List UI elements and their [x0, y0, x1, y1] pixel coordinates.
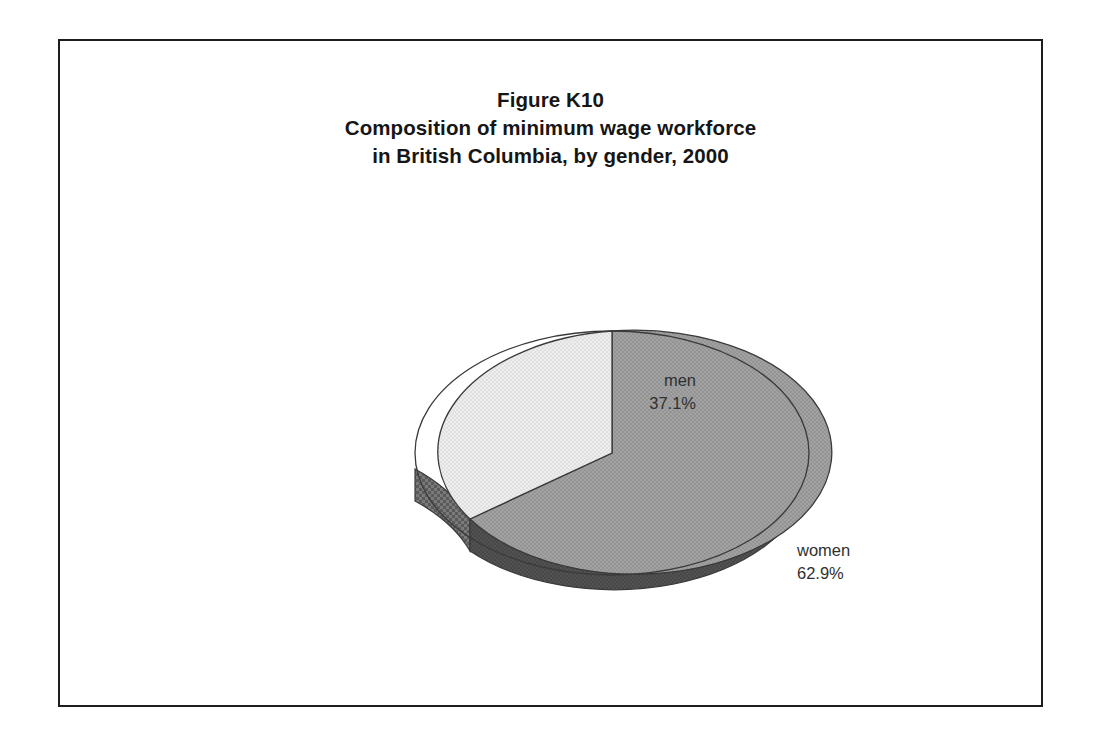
pie-label-women: women 62.9% — [797, 539, 927, 585]
figure-root: Figure K10 Composition of minimum wage w… — [0, 0, 1098, 741]
chart-title-line-3: in British Columbia, by gender, 2000 — [60, 142, 1041, 170]
chart-title-line-1: Figure K10 — [60, 86, 1041, 114]
pie-label-men-value: 37.1% — [600, 392, 696, 415]
pie-chart-graphic — [356, 281, 856, 651]
pie-chart: men 37.1% women 62.9% — [356, 281, 856, 651]
pie-label-men: men 37.1% — [600, 369, 696, 415]
chart-title: Figure K10 Composition of minimum wage w… — [60, 86, 1041, 170]
chart-title-line-2: Composition of minimum wage workforce — [60, 114, 1041, 142]
pie-label-women-value: 62.9% — [797, 562, 927, 585]
figure-border-frame: Figure K10 Composition of minimum wage w… — [58, 39, 1043, 707]
pie-label-men-name: men — [600, 369, 696, 392]
pie-label-women-name: women — [797, 539, 927, 562]
